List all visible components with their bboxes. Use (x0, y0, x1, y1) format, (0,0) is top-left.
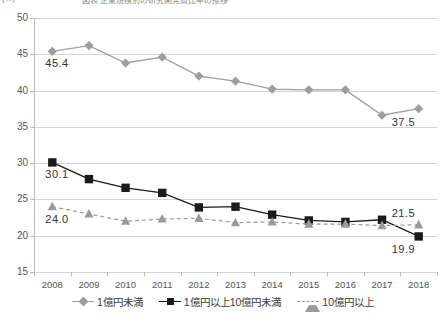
data-point (414, 220, 423, 229)
x-tick-label: 2017 (362, 279, 402, 290)
data-point (84, 41, 93, 50)
x-tick-label: 2014 (252, 279, 292, 290)
x-tick-label: 2015 (289, 279, 329, 290)
data-label: 24.0 (45, 214, 68, 225)
x-tick-label: 2010 (106, 279, 146, 290)
y-tick-label: 30 (2, 158, 28, 168)
data-label: 30.1 (45, 169, 68, 180)
data-point (158, 214, 167, 223)
y-tick-label: 40 (2, 86, 28, 96)
data-point (84, 209, 93, 218)
legend-swatch (297, 295, 319, 307)
y-tick-label: 45 (2, 49, 28, 59)
legend-marker-triangle-icon (305, 298, 320, 312)
legend-marker-diamond-icon (79, 297, 89, 307)
legend-item-2[interactable]: 1億円以上10億円未満 (159, 294, 282, 309)
series-layer (34, 18, 437, 272)
x-tick-label: 2016 (325, 279, 365, 290)
series-1 (48, 41, 424, 120)
data-point (194, 213, 203, 222)
x-tick-mark (71, 272, 72, 276)
x-tick-mark (400, 272, 401, 276)
data-label: 37.5 (392, 117, 415, 128)
data-point (195, 203, 203, 211)
series-2 (48, 158, 423, 240)
x-tick-label: 2018 (399, 279, 439, 290)
x-tick-mark (181, 272, 182, 276)
data-label: 19.9 (392, 244, 415, 255)
x-tick-mark (217, 272, 218, 276)
y-tick-label: 25 (2, 194, 28, 204)
legend-swatch (159, 295, 181, 307)
data-point (48, 47, 57, 56)
clipped-header-strip: (%) 図表 企業規模別の研究開発費比率の推移 (0, 0, 446, 9)
gridline (34, 272, 437, 273)
data-point (231, 77, 240, 86)
chart-container: (%) 図表 企業規模別の研究開発費比率の推移 5045403530252015… (0, 0, 446, 314)
x-tick-mark (144, 272, 145, 276)
x-tick-label: 2013 (216, 279, 256, 290)
legend-label: 10億円以上 (322, 294, 374, 309)
x-tick-mark (290, 272, 291, 276)
legend-item-1[interactable]: 1億円未満 (72, 294, 143, 309)
x-tick-label: 2012 (179, 279, 219, 290)
legend-marker-square-icon (167, 298, 174, 305)
figure-title-clipped: 図表 企業規模別の研究開発費比率の推移 (82, 0, 228, 5)
data-point (304, 85, 313, 94)
data-point (414, 104, 423, 113)
data-point (121, 58, 130, 67)
data-point (268, 85, 277, 94)
data-point (194, 71, 203, 80)
legend-label: 1億円以上10億円未満 (184, 294, 282, 309)
x-tick-mark (364, 272, 365, 276)
data-point (414, 232, 422, 240)
x-tick-label: 2011 (142, 279, 182, 290)
y-tick-label: 15 (2, 267, 28, 277)
x-tick-mark (107, 272, 108, 276)
x-tick-mark (254, 272, 255, 276)
legend-label: 1億円未満 (97, 294, 143, 309)
legend-item-3[interactable]: 10億円以上 (297, 294, 374, 309)
data-point (341, 85, 350, 94)
axis-unit-label: (%) (2, 0, 15, 3)
x-tick-mark (34, 272, 35, 276)
data-point (48, 202, 57, 211)
legend-swatch (72, 295, 94, 307)
data-point (158, 53, 167, 62)
data-label: 45.4 (45, 58, 68, 69)
y-tick-label: 50 (2, 13, 28, 23)
data-point (231, 218, 240, 227)
data-point (121, 184, 129, 192)
x-tick-mark (437, 272, 438, 276)
data-point (48, 158, 56, 166)
data-point (158, 189, 166, 197)
data-point (377, 111, 386, 120)
x-tick-label: 2009 (69, 279, 109, 290)
x-tick-label: 2008 (32, 279, 72, 290)
chart-legend: 1億円未満1億円以上10億円未満10億円以上 (0, 292, 446, 310)
data-label: 21.5 (392, 208, 415, 219)
data-point (231, 202, 239, 210)
y-tick-label: 35 (2, 122, 28, 132)
data-point (85, 175, 93, 183)
x-tick-mark (327, 272, 328, 276)
y-tick-label: 20 (2, 231, 28, 241)
